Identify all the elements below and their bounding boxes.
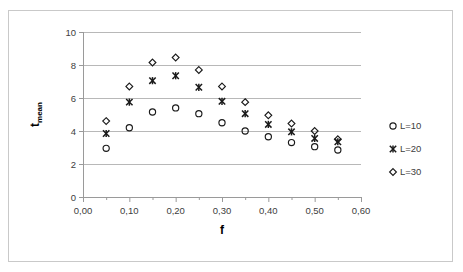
data-point-x <box>196 84 202 91</box>
data-point-diamond <box>288 120 295 127</box>
data-point-circle <box>196 111 202 117</box>
data-point-circle <box>219 120 225 126</box>
data-point-circle <box>335 147 341 153</box>
x-tick-label: 0,10 <box>120 205 139 216</box>
data-point-x <box>126 99 132 106</box>
data-point-diamond <box>219 83 226 90</box>
data-point-circle <box>126 125 132 131</box>
data-point-circle <box>312 144 318 150</box>
x-tick-label: 0,30 <box>213 205 232 216</box>
data-point-x <box>335 138 341 145</box>
data-point-x <box>242 110 248 117</box>
data-point-x <box>311 135 317 142</box>
y-tick-label: 2 <box>71 159 76 170</box>
x-tick-label: 0,40 <box>259 205 278 216</box>
data-point-diamond <box>195 67 202 74</box>
x-axis-title: f <box>220 223 225 237</box>
data-point-circle <box>265 134 271 140</box>
x-tick-label: 0,20 <box>166 205 185 216</box>
data-point-circle <box>173 105 179 111</box>
data-point-diamond <box>242 99 249 106</box>
y-tick-label: 6 <box>71 93 76 104</box>
y-tick-label: 8 <box>71 60 76 71</box>
y-tick-label: 4 <box>71 126 76 137</box>
data-point-circle <box>103 145 109 151</box>
data-point-diamond <box>126 83 133 90</box>
chart-frame: 02468100,000,100,200,300,400,500,60ftmea… <box>8 10 453 262</box>
legend-label: L=20 <box>400 143 421 154</box>
legend-label: L=30 <box>400 166 421 177</box>
y-tick-label: 0 <box>71 192 76 203</box>
data-point-diamond <box>103 118 110 125</box>
data-point-x <box>219 98 225 105</box>
legend-marker-circle <box>390 123 396 129</box>
data-point-circle <box>149 109 155 115</box>
legend-marker-x <box>390 145 396 152</box>
data-point-x <box>265 121 271 128</box>
data-point-diamond <box>172 54 179 61</box>
data-point-x <box>172 72 178 79</box>
y-axis-title-text: tmean <box>28 102 44 127</box>
x-tick-label: 0,50 <box>305 205 324 216</box>
data-point-x <box>149 77 155 84</box>
data-point-diamond <box>149 59 156 66</box>
data-point-x <box>103 130 109 137</box>
legend-label: L=10 <box>400 120 421 131</box>
x-tick-label: 0,60 <box>352 205 371 216</box>
y-axis-title: tmean <box>28 102 44 127</box>
scatter-plot: 02468100,000,100,200,300,400,500,60ftmea… <box>9 11 454 263</box>
data-point-diamond <box>265 112 272 119</box>
data-point-circle <box>288 139 294 145</box>
legend-marker-diamond <box>390 169 397 176</box>
y-tick-label: 10 <box>65 27 76 38</box>
chart-canvas: 02468100,000,100,200,300,400,500,60ftmea… <box>9 11 454 263</box>
x-tick-label: 0,00 <box>74 205 93 216</box>
